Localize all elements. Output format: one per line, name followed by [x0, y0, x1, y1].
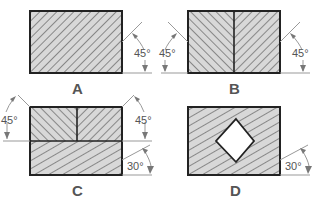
arrowhead-icon [142, 148, 148, 154]
arrowhead-icon [142, 132, 148, 139]
panel-label-d: D [230, 182, 241, 199]
angle-dimension-b-left: 45° [159, 22, 188, 73]
hatched-section-b-right [234, 11, 280, 73]
arrowhead-icon [142, 65, 148, 72]
angle-dimension-c-right-top: 45° [122, 95, 152, 141]
hatched-section-a [30, 11, 122, 73]
panel-c: 45° 45° 30° C [1, 95, 154, 199]
angle-dimension-c-right-bottom: 30° [122, 145, 154, 175]
panel-label-a: A [72, 80, 83, 97]
arrowhead-icon [305, 166, 312, 174]
angle-label-b-left: 45° [159, 47, 176, 59]
panel-b: 45° 45° B [159, 11, 310, 97]
angle-label-a: 45° [134, 47, 151, 59]
arrowhead-icon [300, 65, 306, 72]
angle-dimension-d-right: 30° [280, 145, 312, 175]
angle-dimension-b-right: 45° [280, 22, 310, 73]
arrowhead-icon [300, 148, 306, 154]
angle-label-d: 30° [285, 160, 302, 172]
panel-d: 30° D [188, 107, 312, 199]
angle-label-c-right-top: 45° [135, 114, 152, 126]
arrowhead-icon [162, 65, 168, 72]
section-hatching-diagram: 45° A 45° 45° B [0, 0, 323, 208]
arrowhead-icon [4, 132, 10, 139]
angle-dimension-c-left: 45° [1, 95, 30, 141]
hatched-section-b-left [188, 11, 234, 73]
arrowhead-icon [10, 96, 16, 102]
angle-label-b-right: 45° [292, 47, 309, 59]
angle-dimension-a-right: 45° [122, 22, 152, 73]
hatched-section-c-bottom [30, 141, 122, 175]
angle-label-c-left: 45° [1, 114, 18, 126]
angle-label-c-right-bottom: 30° [127, 160, 144, 172]
hatched-section-c-top-left [30, 107, 77, 141]
hatched-section-c-top-right [77, 107, 122, 141]
panel-label-b: B [229, 80, 240, 97]
arrowhead-icon [147, 166, 154, 174]
arrowhead-icon [134, 96, 140, 102]
panel-label-c: C [72, 182, 83, 199]
panel-a: 45° A [30, 11, 152, 97]
